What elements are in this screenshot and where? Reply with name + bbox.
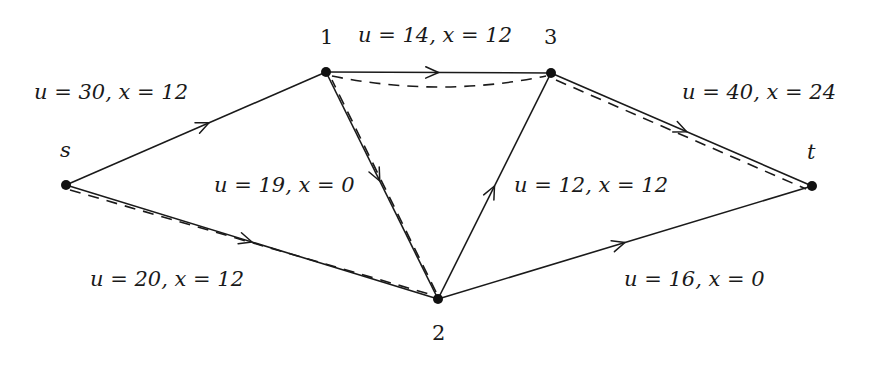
flow-network-diagram: s 1 3 t 2 u = 30, x = 12 u = 20, x = 12 … <box>0 0 880 368</box>
edge-label-3-t: u = 40, x = 24 <box>682 80 836 104</box>
edge-label-s-1: u = 30, x = 12 <box>34 80 188 104</box>
node-label-1: 1 <box>320 25 333 49</box>
node-t <box>807 181 817 191</box>
edge-label-2-t: u = 16, x = 0 <box>624 267 765 291</box>
edge-label-2-3: u = 12, x = 12 <box>514 173 668 197</box>
augmenting-path-layer <box>70 76 806 296</box>
node-3 <box>546 68 556 78</box>
dash-1-3 <box>332 76 546 87</box>
node-label-s: s <box>60 138 71 162</box>
arrowheads-layer <box>195 67 687 252</box>
edges-layer <box>66 72 812 299</box>
edge-label-1-3: u = 14, x = 12 <box>358 23 512 47</box>
edge-label-1-2: u = 19, x = 0 <box>214 173 355 197</box>
node-label-2: 2 <box>432 321 445 345</box>
node-1 <box>321 67 331 77</box>
node-label-t: t <box>807 140 816 164</box>
node-label-3: 3 <box>544 25 557 49</box>
node-s <box>61 180 71 190</box>
edge-label-s-2: u = 20, x = 12 <box>90 267 244 291</box>
node-2 <box>433 294 443 304</box>
